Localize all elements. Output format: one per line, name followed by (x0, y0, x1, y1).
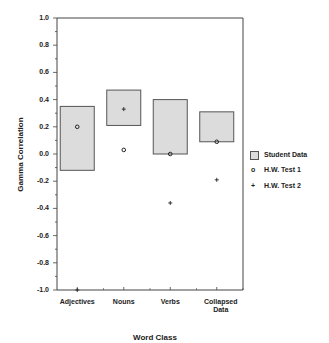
circle-marker-icon: o (251, 166, 260, 173)
student-data-range-box (60, 106, 94, 170)
hw-test-1-marker (122, 148, 126, 152)
x-tick-label: Adjectives (52, 298, 102, 306)
y-tick-label: 0.0 (21, 150, 49, 157)
y-tick-label: -0.8 (21, 259, 49, 266)
legend-item-hw-test-1: oH.W. Test 1 (251, 166, 301, 173)
y-tick-label: -0.4 (21, 204, 49, 211)
x-tick-label: Verbs (145, 298, 195, 306)
hw-test-2-marker (75, 288, 79, 292)
y-tick-label: -0.6 (21, 232, 49, 239)
plus-marker-icon: + (251, 182, 260, 189)
x-tick-label: CollapsedData (196, 298, 246, 314)
y-tick-label: -0.2 (21, 177, 49, 184)
hw-test-2-marker (215, 178, 219, 182)
y-tick-label: -1.0 (21, 286, 49, 293)
y-tick-label: 0.2 (21, 123, 49, 130)
y-axis-label: Gamma Correlation (16, 105, 25, 205)
box-swatch-icon (250, 151, 259, 160)
hw-test-2-marker (168, 201, 172, 205)
y-tick-label: 0.4 (21, 96, 49, 103)
legend-item-student-data: Student Data (250, 151, 307, 160)
student-data-range-box (153, 100, 187, 154)
legend-item-hw-test-2: +H.W. Test 2 (251, 182, 301, 189)
y-tick-label: 1.0 (21, 14, 49, 21)
student-data-range-box (200, 112, 234, 142)
y-tick-label: 0.6 (21, 68, 49, 75)
x-axis-label: Word Class (133, 333, 177, 342)
x-tick-label: Nouns (99, 298, 149, 306)
y-tick-label: 0.8 (21, 41, 49, 48)
